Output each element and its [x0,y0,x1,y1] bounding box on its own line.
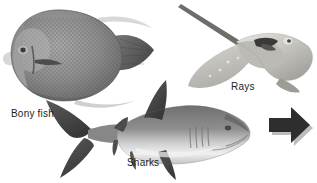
label-sharks: Sharks [127,158,159,168]
label-rays: Rays [231,82,255,92]
right-arrow-icon [262,100,314,150]
figure-panel: Bony fish Rays Sharks [0,0,317,183]
label-bony-fish: Bony fish [11,109,54,119]
arrow-marker [262,100,314,150]
